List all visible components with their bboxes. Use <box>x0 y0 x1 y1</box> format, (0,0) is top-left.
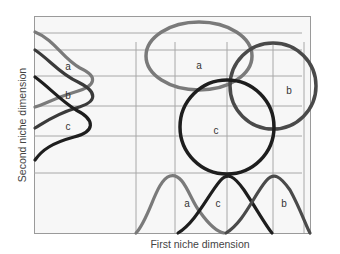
bottom-label-a: a <box>184 198 190 209</box>
x-axis-label: First niche dimension <box>150 238 249 250</box>
diagram-frame <box>35 17 311 234</box>
left-label-c: c <box>66 121 71 132</box>
ellipse-label-c: c <box>214 125 219 136</box>
niche-diagram: a b c a c b a c b First niche dimension … <box>0 0 340 254</box>
ellipse-label-a: a <box>196 60 202 71</box>
y-axis-label: Second niche dimension <box>16 68 28 183</box>
left-label-b: b <box>65 90 71 101</box>
left-label-a: a <box>65 61 71 72</box>
bottom-label-c: c <box>216 198 221 209</box>
bottom-label-b: b <box>281 198 287 209</box>
ellipse-label-b: b <box>286 85 292 96</box>
